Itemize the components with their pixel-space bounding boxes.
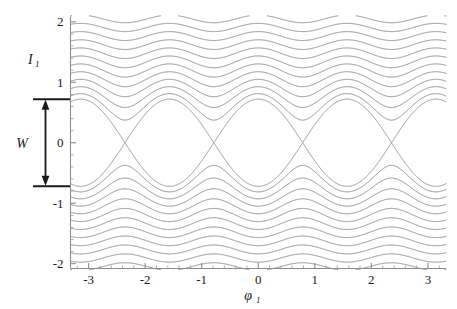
x-axis-title-subscript: 1 bbox=[256, 295, 261, 305]
x-tick-label-3: 0 bbox=[255, 272, 262, 287]
x-tick-label-4: 1 bbox=[312, 272, 319, 287]
phase-space-contour-plot: -3-2-10123 -2-1012 φ 1 I 1 W bbox=[0, 0, 457, 309]
y-tick-label-2: 0 bbox=[57, 135, 64, 150]
x-tick-label-5: 2 bbox=[368, 272, 375, 287]
x-tick-label-1: -2 bbox=[140, 272, 151, 287]
x-tick-label-0: -3 bbox=[83, 272, 94, 287]
y-tick-label-4: 2 bbox=[57, 14, 64, 29]
x-axis-title-text: φ bbox=[244, 288, 252, 303]
width-label: W bbox=[16, 136, 29, 151]
x-tick-label-6: 3 bbox=[425, 272, 432, 287]
y-axis-title-subscript: 1 bbox=[35, 59, 40, 69]
y-tick-label-0: -2 bbox=[53, 256, 64, 271]
x-tick-label-2: -1 bbox=[196, 272, 207, 287]
y-tick-label-3: 1 bbox=[57, 75, 64, 90]
figure-container: -3-2-10123 -2-1012 φ 1 I 1 W bbox=[0, 0, 457, 309]
y-tick-label-1: -1 bbox=[53, 196, 64, 211]
